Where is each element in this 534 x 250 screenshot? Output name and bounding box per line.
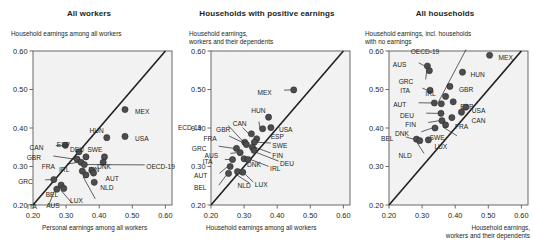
data-point-marker[interactable] xyxy=(237,150,243,156)
data-point-label: BEL xyxy=(194,184,207,191)
x-tick-label: 0.60 xyxy=(514,211,528,220)
y-tick-label: 0.20 xyxy=(13,201,27,210)
y-tick-label: 0.20 xyxy=(191,201,205,210)
data-point-label: BEL xyxy=(381,135,394,142)
data-point-marker[interactable] xyxy=(248,131,254,137)
plot-area-0: 0.200.300.400.500.600.200.300.400.500.60… xyxy=(0,0,178,250)
data-point-label: ESP xyxy=(271,133,285,140)
data-point-label: HUN xyxy=(470,71,485,78)
x-tick-label: 0.30 xyxy=(237,211,251,220)
data-point-marker[interactable] xyxy=(122,106,128,112)
data-point-label: USA xyxy=(472,107,486,114)
data-point-marker[interactable] xyxy=(431,100,437,106)
data-point-label: ITA xyxy=(27,203,37,210)
y-tick-label: 0.50 xyxy=(191,85,205,94)
data-point-label: OECD-19 xyxy=(411,48,440,55)
data-point-marker[interactable] xyxy=(225,170,231,176)
data-point-marker[interactable] xyxy=(227,163,233,169)
data-point-label: CAN xyxy=(471,117,485,124)
data-point-label: MEX xyxy=(135,108,150,115)
data-point-label: FIN xyxy=(405,121,416,128)
data-point-label: IRL xyxy=(59,166,70,173)
data-point-marker[interactable] xyxy=(449,115,455,121)
data-point-label: AUS xyxy=(393,61,407,68)
y-tick-label: 0.30 xyxy=(13,162,27,171)
data-point-marker[interactable] xyxy=(463,104,469,110)
figure-scatter-panels: All workers Household earnings among all… xyxy=(0,0,534,250)
data-point-marker[interactable] xyxy=(104,135,110,141)
data-point-label: FRA xyxy=(42,163,56,170)
data-point-label: AUT xyxy=(194,172,207,179)
data-point-marker[interactable] xyxy=(291,87,297,93)
data-point-label: CAN xyxy=(30,144,44,151)
data-point-marker[interactable] xyxy=(432,125,438,131)
data-point-label: NLD xyxy=(100,184,113,191)
data-point-label: DEU xyxy=(280,160,294,167)
data-point-marker[interactable] xyxy=(268,125,274,131)
data-point-label: ITA xyxy=(400,87,410,94)
data-point-marker[interactable] xyxy=(425,137,431,143)
data-point-marker[interactable] xyxy=(426,68,432,74)
data-point-label: MEX xyxy=(257,89,272,96)
data-point-label: AUT xyxy=(393,101,406,108)
data-point-label: DNK xyxy=(395,130,410,137)
data-point-marker[interactable] xyxy=(442,122,448,128)
x-tick-label: 0.40 xyxy=(92,211,106,220)
data-point-label: LUX xyxy=(255,181,268,188)
y-tick-label: 0.30 xyxy=(369,162,383,171)
data-point-label: LUX xyxy=(434,143,447,150)
data-point-marker[interactable] xyxy=(450,99,456,105)
data-point-marker[interactable] xyxy=(229,156,235,162)
data-point-marker[interactable] xyxy=(81,161,87,167)
data-point-marker[interactable] xyxy=(438,110,444,116)
data-point-label: ESP xyxy=(57,141,71,148)
data-point-marker[interactable] xyxy=(240,169,246,175)
data-point-marker[interactable] xyxy=(83,154,89,160)
data-point-marker[interactable] xyxy=(459,69,465,75)
data-point-marker[interactable] xyxy=(438,101,444,107)
data-point-marker[interactable] xyxy=(243,141,249,147)
y-tick-label: 0.40 xyxy=(13,124,27,133)
data-point-marker[interactable] xyxy=(54,186,60,192)
data-point-label: AUS xyxy=(46,202,60,209)
panel-all-households: All households Household earnings, incl.… xyxy=(356,0,534,250)
data-point-marker[interactable] xyxy=(265,114,271,120)
data-point-marker[interactable] xyxy=(487,52,493,58)
data-point-marker[interactable] xyxy=(417,138,423,144)
data-point-marker[interactable] xyxy=(245,156,251,162)
data-point-marker[interactable] xyxy=(442,93,448,99)
data-point-marker[interactable] xyxy=(91,179,97,185)
data-point-marker[interactable] xyxy=(260,126,266,132)
data-point-marker[interactable] xyxy=(251,147,257,153)
data-point-label: SWE xyxy=(272,142,288,149)
y-tick-label: 0.50 xyxy=(369,85,383,94)
data-point-label: GRC xyxy=(399,78,414,85)
data-point-label: SWE xyxy=(430,134,446,141)
data-point-label: GRC xyxy=(18,178,33,185)
data-point-label: IRL xyxy=(425,90,436,97)
y-tick-label: 0.60 xyxy=(13,47,27,56)
data-point-label: AUT xyxy=(106,175,119,182)
data-point-marker[interactable] xyxy=(458,109,464,115)
plot-area-2: 0.200.300.400.500.600.200.300.400.500.60… xyxy=(356,0,534,250)
data-point-label: SWE xyxy=(87,146,103,153)
data-point-label: CAN xyxy=(233,120,247,127)
x-tick-label: 0.40 xyxy=(270,211,284,220)
data-point-label: NLD xyxy=(237,182,250,189)
data-point-marker[interactable] xyxy=(61,185,67,191)
y-tick-label: 0.60 xyxy=(369,47,383,56)
data-point-marker[interactable] xyxy=(51,176,57,182)
data-point-marker[interactable] xyxy=(90,170,96,176)
data-point-label: OECD-19 xyxy=(178,124,202,131)
x-tick-label: 0.20 xyxy=(26,211,40,220)
data-point-label: HUN xyxy=(90,127,105,134)
data-point-label: DEU xyxy=(70,146,84,153)
data-point-marker[interactable] xyxy=(122,133,128,139)
x-tick-label: 0.20 xyxy=(382,211,396,220)
data-point-label: FRA xyxy=(204,135,218,142)
data-point-label: GBR xyxy=(216,126,231,133)
x-tick-label: 0.30 xyxy=(415,211,429,220)
data-point-marker[interactable] xyxy=(83,172,89,178)
panel-households-positive-earnings: Households with positive earnings Househ… xyxy=(178,0,356,250)
data-point-label: IRL xyxy=(270,165,281,172)
